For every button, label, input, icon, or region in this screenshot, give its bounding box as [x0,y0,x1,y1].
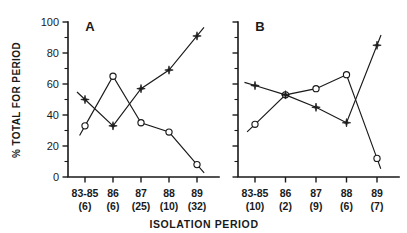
series-line [244,35,381,123]
x-category-count: (32) [188,200,207,212]
figure-container: 02040608010083-85(6)86(6)87(25)88(10)89(… [0,0,407,233]
data-point-open-circle [166,129,172,135]
x-category-label: 88 [341,187,353,199]
x-category-label: 87 [135,187,147,199]
x-category-count: (6) [340,200,353,212]
x-category-label: 87 [310,187,322,199]
x-category-label: 83-85 [72,187,99,199]
panel-b: 83-85(10)86(2)87(9)88(6)89(7)B [233,19,400,212]
x-category-count: (6) [79,200,92,212]
x-category-label: 89 [191,187,203,199]
x-category-count: (25) [132,200,151,212]
y-tick-label: 100 [41,16,59,28]
x-category-label: 86 [107,187,119,199]
x-category-count: (7) [371,200,384,212]
data-point-open-circle [194,162,200,168]
y-tick-label: 20 [47,140,59,152]
y-tick-label: 60 [47,78,59,90]
x-axis-title: ISOLATION PERIOD [149,218,258,230]
data-point-open-circle [110,73,116,79]
x-category-label: 89 [371,187,383,199]
panel-axes-a [68,22,219,177]
data-point-filled-star [312,103,320,111]
line-chart: 02040608010083-85(6)86(6)87(25)88(10)89(… [0,0,407,233]
data-point-open-circle [343,72,349,78]
panel-a: 02040608010083-85(6)86(6)87(25)88(10)89(… [41,16,219,212]
x-category-label: 88 [163,187,175,199]
data-point-open-circle [138,120,144,126]
panel-letter-a: A [85,19,95,34]
x-category-count: (10) [160,200,179,212]
data-point-open-circle [82,123,88,129]
x-category-count: (9) [310,200,323,212]
x-category-label: 86 [280,187,292,199]
data-point-open-circle [374,155,380,161]
data-point-filled-star [373,41,381,49]
y-tick-label: 40 [47,109,59,121]
data-point-filled-star [137,84,145,92]
y-tick-label: 0 [53,171,59,183]
x-category-label: 83-85 [242,187,269,199]
y-tick-label: 80 [47,47,59,59]
data-point-filled-star [251,81,259,89]
series-line [77,27,204,125]
x-category-count: (6) [107,200,120,212]
data-point-open-circle [313,86,319,92]
panel-letter-b: B [255,19,264,34]
data-point-filled-star [342,119,350,127]
y-axis-title: % TOTAL FOR PERIOD [11,42,22,158]
data-point-open-circle [252,121,258,127]
x-category-count: (10) [246,200,265,212]
x-category-count: (2) [279,200,292,212]
